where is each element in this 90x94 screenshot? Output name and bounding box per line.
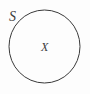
set-interior-label: X: [41, 41, 48, 53]
figure-root: S X: [0, 0, 90, 94]
set-boundary-label: S: [9, 10, 16, 24]
